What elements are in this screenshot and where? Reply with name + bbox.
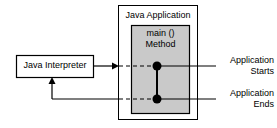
application-starts-line2: Starts <box>196 66 274 77</box>
java-interpreter-label: Java Interpreter <box>16 60 94 71</box>
main-method-label-line2: Method <box>131 39 190 50</box>
java-application-diagram: Java Application main () Method Java Int… <box>0 0 277 128</box>
application-starts-label: Application Starts <box>196 55 274 77</box>
java-application-title: Java Application <box>118 10 198 21</box>
application-ends-line1: Application <box>196 88 274 99</box>
main-method-label-line1: main () <box>131 28 190 39</box>
invoke-arrow-head <box>112 63 119 70</box>
application-ends-line2: Ends <box>196 99 274 110</box>
application-ends-label: Application Ends <box>196 88 274 110</box>
application-starts-line1: Application <box>196 55 274 66</box>
